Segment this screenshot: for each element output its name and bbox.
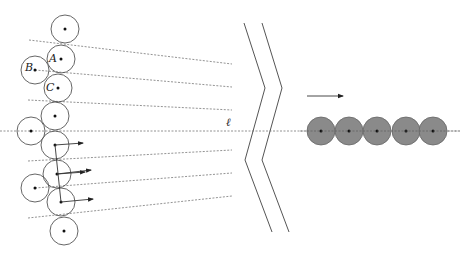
diagram-canvas: ABCℓ [0, 0, 472, 259]
center-dot [34, 187, 37, 190]
center-dot [34, 69, 37, 72]
zigzag-line [244, 23, 272, 232]
dashed-line [28, 196, 232, 218]
label-C: C [46, 82, 54, 93]
center-dot [63, 230, 66, 233]
dashed-line [28, 150, 232, 161]
dashed-line [28, 100, 232, 110]
velocity-arrows [55, 96, 343, 202]
center-dot [64, 28, 67, 31]
zigzag-break-lines [244, 23, 289, 232]
label-A: A [49, 53, 57, 64]
dashed-line [29, 40, 232, 64]
open-circle-stack [17, 15, 79, 245]
gray-circle-row [300, 117, 460, 145]
label-B: B [25, 62, 33, 73]
arrow [61, 199, 93, 202]
label-ell: ℓ [226, 117, 231, 128]
circle-packing-figure [0, 0, 472, 259]
center-dot [30, 130, 33, 133]
center-dot [57, 87, 60, 90]
center-dot [60, 58, 63, 61]
zigzag-line [262, 23, 289, 232]
center-dot [54, 115, 57, 118]
